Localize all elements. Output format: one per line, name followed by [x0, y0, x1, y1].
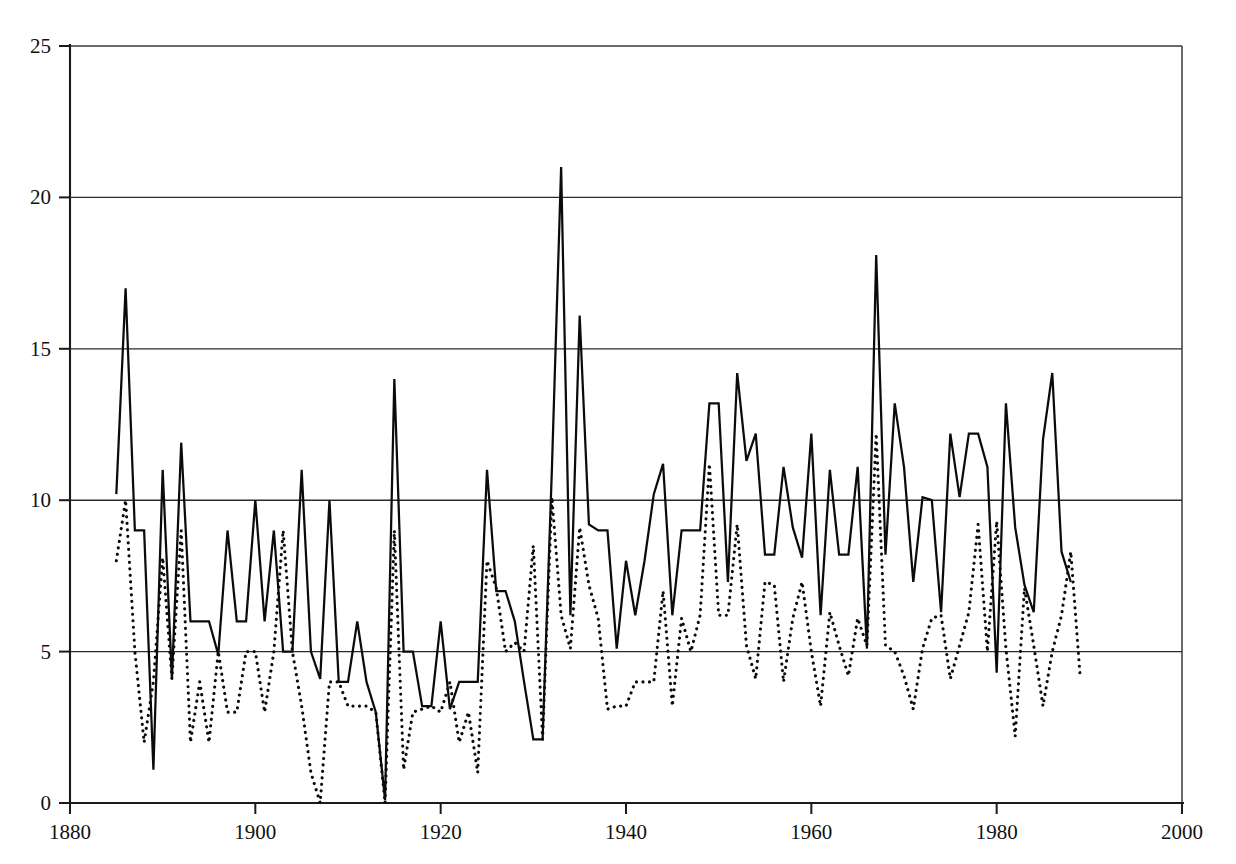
- x-axis-ticks: [70, 803, 1182, 814]
- series-dotted-line: [116, 434, 1080, 803]
- plot-frame: [70, 46, 1182, 803]
- x-tick-label-1880: 1880: [49, 820, 91, 844]
- x-tick-label-2000: 2000: [1161, 820, 1203, 844]
- y-tick-label-0: 0: [41, 791, 52, 815]
- y-tick-label-25: 25: [30, 34, 51, 58]
- y-tick-label-15: 15: [30, 337, 51, 361]
- line-chart: 0510152025 1880190019201940196019802000: [0, 0, 1236, 864]
- x-tick-label-1920: 1920: [420, 820, 462, 844]
- series-solid-line: [116, 167, 1070, 800]
- y-tick-label-10: 10: [30, 488, 51, 512]
- x-tick-label-1980: 1980: [976, 820, 1018, 844]
- y-tick-label-5: 5: [41, 640, 52, 664]
- y-axis-tick-labels: 0510152025: [30, 34, 51, 815]
- y-tick-label-20: 20: [30, 185, 51, 209]
- x-axis-tick-labels: 1880190019201940196019802000: [49, 820, 1203, 844]
- y-axis-ticks: [59, 46, 70, 803]
- chart-container: 0510152025 1880190019201940196019802000: [0, 0, 1236, 864]
- gridlines: [70, 197, 1182, 651]
- x-tick-label-1900: 1900: [234, 820, 276, 844]
- x-tick-label-1940: 1940: [605, 820, 647, 844]
- x-tick-label-1960: 1960: [790, 820, 832, 844]
